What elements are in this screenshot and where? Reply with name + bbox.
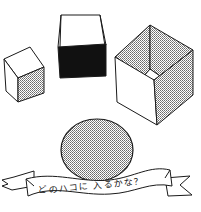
black-box-rim: [60, 15, 105, 47]
disc: [61, 119, 133, 181]
illustration-canvas: どのハコに 入るかな？: [0, 0, 201, 212]
black-box: [58, 15, 106, 78]
disc-shape: [61, 119, 133, 181]
black-box-right-edge: [100, 15, 106, 45]
black-box-front-face: [58, 44, 106, 78]
small-box: [4, 47, 44, 102]
large-box: [115, 25, 193, 125]
